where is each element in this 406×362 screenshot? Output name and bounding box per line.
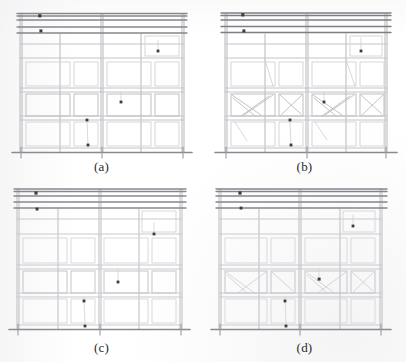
frame-drawing-a	[0, 0, 203, 181]
panel-label-d: (d)	[203, 340, 406, 356]
infill-panels-storey3-d	[225, 299, 375, 323]
frame-drawing-c	[0, 181, 203, 362]
columns-d	[219, 189, 382, 329]
roof-band-c	[14, 189, 186, 208]
figure-panel-d: (d)	[203, 181, 406, 362]
diagonal-cracks-d	[226, 272, 374, 293]
measurement-markers-d	[238, 191, 354, 327]
columns-a	[20, 14, 184, 152]
figure-panel-a: (a)	[0, 0, 203, 181]
frame-drawing-d	[203, 181, 406, 362]
columns-b	[225, 14, 387, 152]
measurement-markers-b	[241, 13, 362, 146]
storey-beams-a	[20, 44, 184, 148]
panel-label-b: (b)	[203, 159, 406, 175]
figure-panel-c: (c)	[0, 181, 203, 362]
panel-label-c: (c)	[0, 340, 203, 356]
panel-label-a: (a)	[0, 159, 203, 175]
roof-band-a	[17, 14, 187, 34]
columns-c	[17, 189, 182, 329]
secondary-cracks-b	[235, 60, 355, 141]
frame-drawing-b	[203, 0, 406, 181]
figure-panel-b: (b)	[203, 0, 406, 181]
figure-panel-grid: (a)	[0, 0, 406, 362]
infill-panels-storey2-d	[225, 271, 375, 293]
